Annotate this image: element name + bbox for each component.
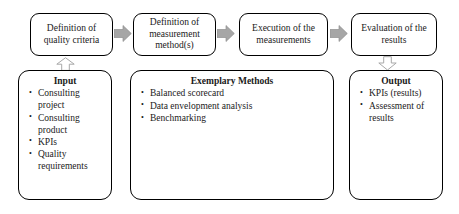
list-item: Data envelopment analysis — [141, 101, 327, 113]
stage-label: Definition of quality criteria — [39, 23, 105, 46]
detail-box-input: Input Consulting project Consulting prod… — [18, 70, 112, 200]
list-item: Benchmarking — [141, 113, 327, 125]
list-item: Balanced scorecard — [141, 88, 327, 100]
detail-box-output: Output KPIs (results) Assessment of resu… — [349, 70, 443, 200]
detail-box-title: Input — [23, 76, 107, 87]
stage-box-definition-measurement-method: Definition of measurement method(s) — [133, 13, 216, 56]
list-item: Assessment of results — [360, 101, 436, 125]
arrow-up-icon-input-to-stage1 — [56, 57, 75, 71]
arrow-down-icon-stage4-to-output — [378, 56, 397, 71]
list-item: KPIs (results) — [360, 88, 436, 100]
stage-label: Evaluation of the results — [356, 23, 431, 46]
stage-box-execution-measurements: Execution of the measurements — [239, 13, 328, 56]
stage-box-definition-quality-criteria: Definition of quality criteria — [30, 13, 113, 56]
stage-label: Execution of the measurements — [247, 23, 320, 46]
list-item: Consulting project — [29, 88, 105, 112]
process-flow-diagram: Definition of quality criteria Definitio… — [0, 0, 459, 214]
list-item: KPIs — [29, 137, 105, 149]
detail-box-title: Exemplary Methods — [135, 76, 329, 87]
detail-box-list: Balanced scorecard Data envelopment anal… — [135, 88, 329, 125]
detail-box-list: Consulting project Consulting product KP… — [23, 88, 107, 173]
detail-box-list: KPIs (results) Assessment of results — [354, 88, 438, 125]
detail-box-exemplary-methods: Exemplary Methods Balanced scorecard Dat… — [130, 70, 334, 200]
list-item: Consulting product — [29, 113, 105, 137]
list-item: Quality requirements — [29, 149, 105, 173]
stage-label: Definition of measurement method(s) — [144, 17, 205, 52]
detail-box-title: Output — [354, 76, 438, 87]
stage-box-evaluation-results: Evaluation of the results — [351, 13, 437, 56]
